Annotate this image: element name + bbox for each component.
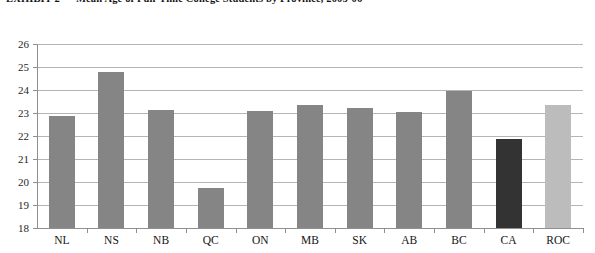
- x-axis-tick: [236, 228, 237, 233]
- y-axis-label: 22: [0, 131, 29, 142]
- bar-qc: [198, 188, 224, 228]
- y-axis: [37, 44, 38, 229]
- bar-chart: 262524232221201918NLNSNBQCONMBSKABBCCARO…: [0, 0, 595, 253]
- bar-nl: [49, 116, 75, 228]
- x-axis-label-nl: NL: [37, 234, 87, 246]
- x-axis-label-ca: CA: [484, 234, 534, 246]
- plot-area: [37, 44, 583, 228]
- bar-sk: [347, 108, 373, 228]
- x-axis-tick: [186, 228, 187, 233]
- x-axis-label-sk: SK: [335, 234, 385, 246]
- x-axis-label-nb: NB: [136, 234, 186, 246]
- y-axis-tick: [33, 159, 38, 160]
- y-axis-label: 20: [0, 177, 29, 188]
- x-axis-label-ab: AB: [384, 234, 434, 246]
- y-axis-label: 19: [0, 200, 29, 211]
- y-axis-label: 24: [0, 85, 29, 96]
- x-axis-label-bc: BC: [434, 234, 484, 246]
- y-axis-tick: [33, 67, 38, 68]
- y-axis-tick: [33, 113, 38, 114]
- bar-ca: [496, 139, 522, 228]
- bar-bc: [446, 91, 472, 228]
- y-axis-tick: [33, 205, 38, 206]
- x-axis-label-ns: NS: [87, 234, 137, 246]
- bar-ns: [98, 72, 124, 228]
- x-axis-tick: [533, 228, 534, 233]
- x-axis-label-roc: ROC: [533, 234, 583, 246]
- x-axis-tick: [87, 228, 88, 233]
- bar-mb: [297, 105, 323, 228]
- bar-ab: [396, 112, 422, 228]
- y-axis-label: 18: [0, 223, 29, 234]
- y-axis-tick: [33, 182, 38, 183]
- x-axis-tick: [285, 228, 286, 233]
- x-axis: [37, 228, 584, 229]
- bar-roc: [545, 105, 571, 228]
- gridline: [37, 67, 583, 68]
- x-axis-label-qc: QC: [186, 234, 236, 246]
- bar-nb: [148, 110, 174, 228]
- x-axis-tick: [583, 228, 584, 233]
- x-axis-tick: [136, 228, 137, 233]
- y-axis-tick: [33, 90, 38, 91]
- y-axis-label: 26: [0, 39, 29, 50]
- bar-on: [247, 111, 273, 228]
- y-axis-tick: [33, 44, 38, 45]
- x-axis-tick: [434, 228, 435, 233]
- y-axis-label: 21: [0, 154, 29, 165]
- x-axis-tick: [484, 228, 485, 233]
- y-axis-tick: [33, 136, 38, 137]
- gridline: [37, 44, 583, 45]
- y-axis-label: 23: [0, 108, 29, 119]
- x-axis-tick: [335, 228, 336, 233]
- x-axis-label-mb: MB: [285, 234, 335, 246]
- x-axis-tick: [384, 228, 385, 233]
- x-axis-label-on: ON: [236, 234, 286, 246]
- y-axis-label: 25: [0, 62, 29, 73]
